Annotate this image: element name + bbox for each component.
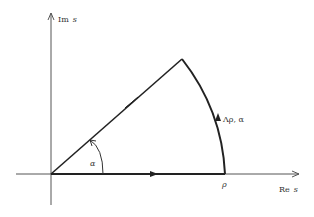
contour-return-segment	[51, 59, 182, 174]
contour-diagram: Ims Res ρ Λρ, α α	[0, 0, 314, 217]
direction-arrow-icon	[150, 171, 158, 177]
radius-label: ρ	[221, 180, 227, 189]
arc-direction-arrow-icon	[215, 113, 221, 121]
return-direction-arrow-icon	[125, 97, 138, 108]
arc-label: Λρ, α	[222, 115, 245, 124]
real-axis-label: Res	[279, 185, 298, 194]
imaginary-axis-label: Ims	[58, 15, 77, 24]
angle-label: α	[90, 159, 96, 168]
